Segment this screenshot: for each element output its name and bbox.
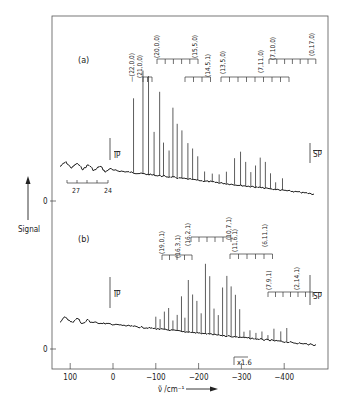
progression-label: (7,9,1) — [265, 271, 273, 290]
sp-label-b: SP — [313, 292, 323, 301]
x-axis-label: ν̃ /cm⁻¹ — [158, 385, 184, 394]
spectra-plot-area: 1000−100−200−300−400—(22,0,0)(21,0,0)(20… — [60, 33, 316, 382]
x-tick-label: −200 — [189, 373, 209, 382]
progression-label: (15,5,0) — [191, 35, 199, 58]
progression-label: (16,2,1) — [184, 223, 192, 246]
progression-label: (7,10,0) — [269, 37, 277, 60]
plot-frame — [52, 16, 328, 369]
progression-label: (21,0,0) — [136, 55, 144, 78]
progression-label: —(22,0,0) — [128, 53, 136, 82]
panel-a-label: (a) — [78, 55, 89, 65]
ip-label-a: IP — [114, 151, 121, 160]
ip-label-b: IP — [114, 290, 121, 299]
x-tick-label: 100 — [63, 373, 77, 382]
progression-label: (6,11,1) — [261, 224, 269, 247]
spectrum-figure: (a) (b) Signal 0 0 1000−100−200−300−400—… — [0, 0, 344, 412]
inset-tick-24: 24 — [104, 187, 112, 195]
progression-label: (11,6,1) — [231, 229, 239, 252]
x-tick-label: −400 — [274, 373, 294, 382]
progression-label: (20,0,0) — [153, 35, 161, 58]
progression-label: (16,3,1) — [174, 235, 182, 258]
inset-scale-bar — [67, 180, 108, 183]
signal-arrow-icon — [26, 176, 31, 220]
progression-label: (2,14,1) — [293, 267, 301, 290]
y-axis-label: Signal — [18, 225, 40, 234]
progression-label: (19,0,1) — [158, 231, 166, 254]
x-axis-arrow-icon — [186, 387, 218, 392]
scale-note: x1.6 — [237, 358, 252, 367]
x-tick-label: 0 — [111, 373, 116, 382]
progression-label: (14,5,1) — [204, 54, 212, 77]
panel-b-label: (b) — [78, 234, 89, 244]
x-tick-label: −300 — [232, 373, 252, 382]
zero-label-b: 0 — [43, 345, 48, 354]
inset-tick-27: 27 — [72, 187, 80, 195]
progression-label: (7,11,0) — [257, 50, 265, 73]
x-tick-label: −100 — [146, 373, 166, 382]
progression-label: (0,17,0) — [308, 33, 316, 56]
zero-label-a: 0 — [43, 197, 48, 206]
progression-label: (13,5,0) — [219, 51, 227, 74]
sp-label-a: SP — [313, 150, 323, 159]
